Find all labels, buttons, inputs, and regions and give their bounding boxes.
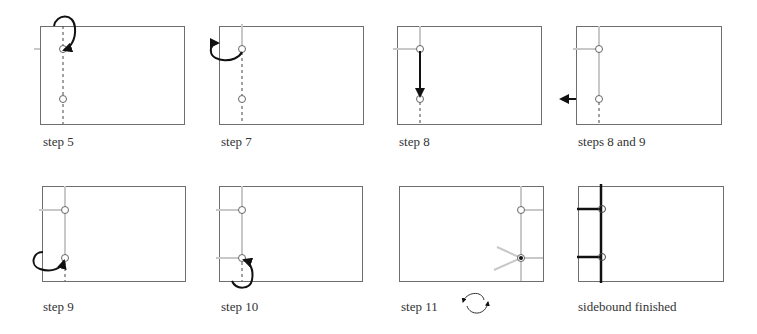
hole-top — [239, 207, 246, 214]
label-steps-8-and-9: steps 8 and 9 — [578, 134, 646, 150]
hole-top — [518, 207, 525, 214]
hole-bottom — [239, 96, 246, 103]
panel-step-10 — [216, 186, 363, 288]
thread-loop-arrow — [54, 17, 75, 51]
panel-step-9 — [34, 186, 186, 282]
label-step-10: step 10 — [221, 299, 258, 315]
hole-bottom — [62, 255, 69, 262]
hole-top — [596, 46, 603, 53]
thread-end-lower — [494, 258, 521, 270]
label-step-11: step 11 — [401, 299, 438, 315]
thread-loop-arrow — [211, 43, 242, 60]
panel-step-7 — [211, 24, 364, 125]
page-frame — [220, 187, 363, 282]
label-step-7: step 7 — [221, 134, 252, 150]
hole-bottom — [60, 96, 67, 103]
panel-sidebound-finished — [577, 184, 724, 283]
knot — [519, 256, 523, 260]
rotate-arrows-icon — [463, 293, 488, 313]
hole-bottom — [417, 96, 424, 103]
hole-bottom — [596, 96, 603, 103]
hole-top — [62, 207, 69, 214]
label-step-8: step 8 — [399, 134, 430, 150]
page-frame — [41, 27, 185, 125]
sidebound-binding-diagram — [0, 0, 757, 334]
panel-step-5 — [34, 17, 185, 125]
panel-step-8 — [393, 26, 542, 125]
label-sidebound-finished: sidebound finished — [578, 299, 677, 315]
page-frame — [43, 187, 186, 282]
panel-steps-8-and-9 — [561, 26, 722, 125]
panel-step-11 — [400, 186, 544, 282]
label-step-5: step 5 — [43, 134, 74, 150]
thread-loop-arrow — [34, 252, 64, 270]
label-step-9: step 9 — [43, 299, 74, 315]
hole-top — [239, 46, 246, 53]
